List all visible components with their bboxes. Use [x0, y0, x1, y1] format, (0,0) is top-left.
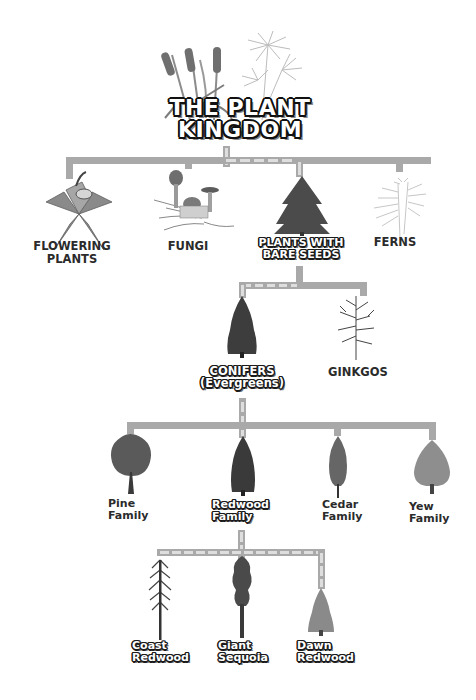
connector-bar-level3: [127, 422, 436, 429]
dawn-redwood-icon: [306, 588, 336, 638]
cedar-tree-icon: [325, 436, 351, 498]
connector-bar-level4-highlight: [160, 551, 322, 554]
label-coast-line1: Coast: [132, 640, 196, 652]
label-cedar-line2: Family: [322, 511, 372, 523]
connector-drop-conifers-highlight: [241, 285, 244, 296]
label-yew-family: Yew Family: [409, 501, 459, 525]
label-conifers-line2: (Evergreens): [200, 377, 284, 389]
label-giant-sequoia: Giant Sequoia: [218, 640, 278, 663]
label-yew-line2: Family: [409, 513, 459, 525]
label-redwood-line1: Redwood: [212, 499, 272, 511]
label-ferns-line1: FERNS: [360, 236, 430, 249]
title-line-1: THE PLANT: [150, 96, 330, 119]
label-coast-redwood: Coast Redwood: [132, 640, 196, 663]
connector-drop-cedar: [334, 422, 341, 436]
connector-drop-ferns: [396, 157, 403, 172]
redwood-tree-icon: [228, 436, 258, 498]
fern-icon: [368, 178, 428, 238]
label-redwood-family: Redwood Family: [212, 499, 272, 522]
giant-sequoia-icon: [230, 556, 254, 638]
label-conifers: CONIFERS (Evergreens): [200, 365, 284, 389]
conifer-icon: [224, 296, 260, 360]
label-flowering-plants: FLOWERING PLANTS: [22, 240, 122, 265]
title-line-2: KINGDOM: [150, 118, 330, 141]
label-flowering-line2: PLANTS: [22, 253, 122, 266]
connector-drop-yew: [429, 422, 436, 440]
connector-trunk-conifers-highlight: [241, 402, 244, 436]
label-fungi-line1: FUNGI: [148, 240, 228, 253]
label-dawn-redwood: Dawn Redwood: [297, 640, 361, 663]
connector-drop-bare-seeds-highlight: [298, 162, 301, 175]
label-fungi: FUNGI: [148, 240, 228, 253]
coast-redwood-icon: [148, 560, 172, 640]
connector-bar-level2-highlight: [243, 284, 297, 287]
label-giant-line1: Giant: [218, 640, 278, 652]
label-pine-family: Pine Family: [108, 498, 158, 522]
fir-tree-icon: [272, 176, 332, 236]
label-bare-seeds-line2: BARE SEEDS: [247, 249, 355, 261]
label-giant-line2: Sequoia: [218, 652, 278, 664]
connector-drop-dawn-highlight: [320, 553, 323, 587]
label-bare-seeds-line1: PLANTS WITH: [247, 237, 355, 249]
label-redwood-line2: Family: [212, 511, 272, 523]
label-cedar-family: Cedar Family: [322, 499, 372, 523]
label-ferns: FERNS: [360, 236, 430, 249]
mushroom-icon: [154, 168, 234, 240]
label-coast-line2: Redwood: [132, 652, 196, 664]
pine-tree-icon: [106, 432, 156, 496]
connector-bar-level1-highlight: [226, 159, 298, 162]
label-flowering-line1: FLOWERING: [22, 240, 122, 253]
yew-tree-icon: [412, 440, 452, 496]
bare-tree-icon: [332, 296, 382, 362]
label-ginkgos-line1: GINKGOS: [318, 366, 398, 379]
label-dawn-line2: Redwood: [297, 652, 361, 664]
label-dawn-line1: Dawn: [297, 640, 361, 652]
label-ginkgos: GINKGOS: [318, 366, 398, 379]
label-plants-with-bare-seeds: PLANTS WITH BARE SEEDS: [247, 237, 355, 260]
connector-drop-ginkgos: [360, 282, 367, 296]
label-pine-line2: Family: [108, 510, 158, 522]
